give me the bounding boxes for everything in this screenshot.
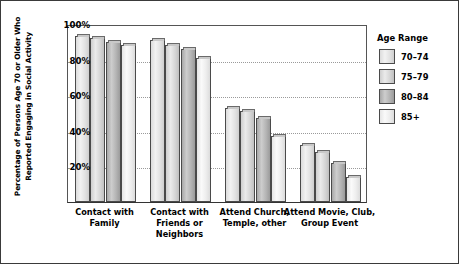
legend-item-label: 70–74 bbox=[401, 52, 429, 62]
legend-swatch-icon bbox=[379, 89, 395, 104]
bar bbox=[121, 45, 136, 202]
legend-item-label: 80–84 bbox=[401, 92, 429, 102]
y-axis-tick-label: 40% bbox=[50, 127, 90, 137]
y-axis-tick-label: 60% bbox=[50, 91, 90, 101]
bar bbox=[256, 118, 271, 202]
y-axis-tick-label: 20% bbox=[50, 162, 90, 172]
legend-item[interactable]: 75–79 bbox=[379, 69, 455, 84]
bar bbox=[90, 38, 105, 202]
legend-swatch-icon bbox=[379, 49, 395, 64]
chart-legend: Age Range 70–7475–7980–8485+ bbox=[379, 33, 455, 129]
legend-item[interactable]: 85+ bbox=[379, 109, 455, 124]
legend-item-label: 85+ bbox=[401, 112, 420, 122]
bar bbox=[331, 163, 346, 202]
bar-group bbox=[225, 108, 287, 202]
chart-figure: Percentage of Persons Age 70 or Older Wh… bbox=[0, 0, 459, 264]
plot-area bbox=[67, 25, 367, 203]
legend-swatch-icon bbox=[379, 69, 395, 84]
x-axis-label-line: Attend Movie, Club, bbox=[280, 207, 380, 218]
legend-title: Age Range bbox=[377, 33, 455, 43]
bar-group bbox=[150, 40, 212, 202]
bar-group bbox=[300, 145, 362, 202]
bar bbox=[165, 45, 180, 202]
legend-items: 70–7475–7980–8485+ bbox=[379, 49, 455, 124]
x-axis-label-line: Group Event bbox=[280, 218, 380, 229]
bar bbox=[106, 42, 121, 202]
bar bbox=[271, 136, 286, 202]
x-axis-category-label: Attend Movie, Club,Group Event bbox=[280, 207, 380, 229]
y-axis-tick-label: 80% bbox=[50, 56, 90, 66]
bar bbox=[150, 40, 165, 202]
bar bbox=[346, 177, 361, 202]
bar bbox=[181, 49, 196, 202]
bar bbox=[315, 152, 330, 202]
y-axis-title-line-1: Percentage of Persons Age 70 or Older Wh… bbox=[13, 7, 24, 207]
x-axis-label-line: Neighbors bbox=[130, 229, 230, 240]
legend-item-label: 75–79 bbox=[401, 72, 429, 82]
y-axis-tick-label: 100% bbox=[50, 20, 90, 30]
bar bbox=[240, 111, 255, 202]
bar bbox=[225, 108, 240, 202]
legend-item[interactable]: 70–74 bbox=[379, 49, 455, 64]
y-axis-title-wrap: Percentage of Persons Age 70 or Older Wh… bbox=[1, 1, 31, 221]
legend-item[interactable]: 80–84 bbox=[379, 89, 455, 104]
legend-swatch-icon bbox=[379, 109, 395, 124]
bar bbox=[300, 145, 315, 202]
y-axis-title-line-2: Reported Engaging in Social Activity bbox=[23, 7, 34, 207]
y-axis-title: Percentage of Persons Age 70 or Older Wh… bbox=[13, 7, 34, 207]
bar bbox=[196, 58, 211, 202]
